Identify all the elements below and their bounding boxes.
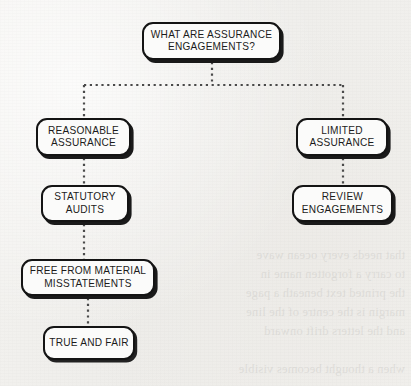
- node-statutory-audits[interactable]: STATUTORY AUDITS: [41, 185, 129, 222]
- node-limited-assurance[interactable]: LIMITED ASSURANCE: [296, 118, 388, 156]
- node-what-are-assurance-engagements[interactable]: WHAT ARE ASSURANCE ENGAGEMENTS?: [142, 22, 281, 60]
- node-true-and-fair[interactable]: TRUE AND FAIR: [43, 326, 135, 360]
- node-reasonable-assurance[interactable]: REASONABLE ASSURANCE: [36, 118, 131, 156]
- node-free-from-material-misstatements[interactable]: FREE FROM MATERIAL MISSTATEMENTS: [21, 259, 155, 296]
- assurance-engagements-flowchart: WHAT ARE ASSURANCE ENGAGEMENTS? REASONAB…: [0, 0, 411, 386]
- node-review-engagements[interactable]: REVIEW ENGAGEMENTS: [292, 185, 393, 222]
